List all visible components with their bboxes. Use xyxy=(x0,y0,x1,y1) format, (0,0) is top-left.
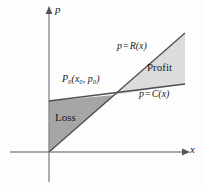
x-axis-arrowhead xyxy=(182,149,190,156)
cost-label-equals: = xyxy=(144,88,152,99)
revenue-label-equals: = xyxy=(122,40,130,51)
revenue-line-label: p=R(x) xyxy=(117,41,147,51)
graph-canvas xyxy=(0,0,203,190)
break-even-point-label: P₀(x₀, p₀) xyxy=(62,74,100,84)
p-axis-label: p xyxy=(55,4,61,15)
x-axis-label: x xyxy=(190,144,195,155)
loss-region-label: Loss xyxy=(55,112,76,123)
p-axis-arrowhead xyxy=(46,6,53,14)
revenue-label-rhs: R(x) xyxy=(130,40,147,51)
break-even-analysis-figure: p x p=R(x) p=C(x) Profit Loss P₀(x₀, p₀) xyxy=(0,0,203,190)
cost-line-label: p=C(x) xyxy=(139,89,169,99)
profit-region-label: Profit xyxy=(147,62,172,73)
cost-label-rhs: C(x) xyxy=(152,88,170,99)
